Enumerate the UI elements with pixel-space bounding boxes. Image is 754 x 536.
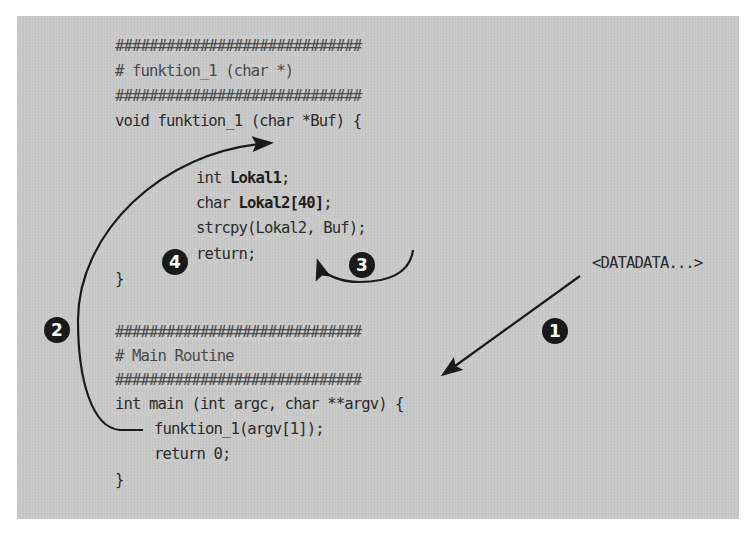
code-line-char-lokal2: char Lokal2[40];	[196, 191, 332, 216]
variable-lokal1: Lokal1	[230, 169, 281, 187]
code-line-return-0: return 0;	[154, 442, 230, 467]
step-badge-3: 3	[349, 252, 375, 278]
hash-divider-top-funktion: #############################	[115, 34, 361, 59]
main-signature: int main (int argc, char **argv) {	[115, 392, 404, 417]
code-line-int-lokal1: int Lokal1;	[196, 166, 289, 191]
comment-funktion-1: # funktion_1 (char *)	[115, 59, 293, 84]
comment-main-routine: # Main Routine	[115, 344, 234, 369]
step-badge-4: 4	[162, 249, 188, 275]
keyword-int: int	[196, 169, 230, 187]
funktion-1-closing-brace: }	[115, 267, 124, 292]
semicolon: ;	[281, 169, 290, 187]
variable-lokal2: Lokal2[40]	[238, 194, 323, 212]
code-line-return: return;	[196, 242, 255, 267]
step-badge-1: 1	[542, 318, 568, 344]
input-data-label: <DATADATA...>	[592, 254, 702, 272]
funktion-1-signature: void funktion_1 (char *Buf) {	[115, 109, 361, 134]
main-closing-brace: }	[115, 468, 124, 493]
hash-divider-top-main: #############################	[115, 320, 361, 345]
code-line-call-funktion-1: funktion_1(argv[1]);	[154, 417, 324, 442]
hash-divider-bottom-main: #############################	[115, 368, 361, 393]
step-badge-2: 2	[44, 317, 70, 343]
hash-divider-bottom-funktion: #############################	[115, 84, 361, 109]
code-line-strcpy: strcpy(Lokal2, Buf);	[196, 216, 366, 241]
semicolon: ;	[323, 194, 332, 212]
keyword-char: char	[196, 194, 238, 212]
